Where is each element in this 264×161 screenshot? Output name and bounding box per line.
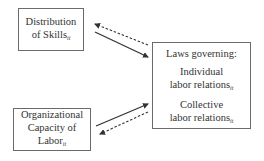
arrow-laws-to-org-dashed — [100, 112, 148, 134]
edges-layer — [0, 0, 264, 161]
arrow-laws-to-skills-dashed — [95, 24, 148, 45]
arrow-skills-to-laws-solid — [95, 32, 148, 57]
arrow-org-to-laws-solid — [96, 104, 148, 126]
